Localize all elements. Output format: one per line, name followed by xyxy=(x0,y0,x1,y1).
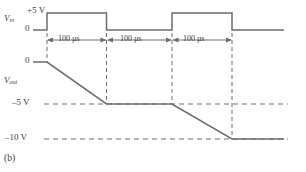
duration-label-2: 100 µs xyxy=(120,35,142,43)
vin-high-level-label: +5 V xyxy=(27,6,45,15)
waveform-svg xyxy=(0,0,306,172)
vout-minus10-level-label: –10 V xyxy=(5,133,27,142)
panel-label: (b) xyxy=(4,154,15,164)
duration-arrowhead-3-left xyxy=(173,37,179,42)
vout-trace xyxy=(33,62,284,139)
vout-waveform-group xyxy=(33,62,284,139)
vin-subscript: in xyxy=(10,17,15,23)
duration-label-1: 100 µs xyxy=(58,35,80,43)
vin-axis-label: Vin xyxy=(4,14,14,23)
duration-arrowhead-3-right xyxy=(226,37,232,42)
duration-arrowhead-1-left xyxy=(47,37,53,42)
vin-zero-level-label: 0 xyxy=(25,24,30,33)
vin-waveform-group xyxy=(33,13,284,30)
vout-reference-lines-group xyxy=(44,104,288,139)
duration-arrowhead-1-right xyxy=(101,37,107,42)
duration-label-3: 100 µs xyxy=(183,35,205,43)
duration-arrowhead-2-right xyxy=(166,37,172,42)
waveform-figure: Vin +5 V 0 0 Vout –5 V –10 V 100 µs 100 … xyxy=(0,0,306,172)
vout-subscript: out xyxy=(10,79,18,85)
vout-axis-label: Vout xyxy=(4,76,17,85)
duration-arrowhead-2-left xyxy=(107,37,113,42)
vout-zero-level-label: 0 xyxy=(25,56,30,65)
vin-trace xyxy=(33,13,284,30)
vout-minus5-level-label: –5 V xyxy=(12,98,30,107)
